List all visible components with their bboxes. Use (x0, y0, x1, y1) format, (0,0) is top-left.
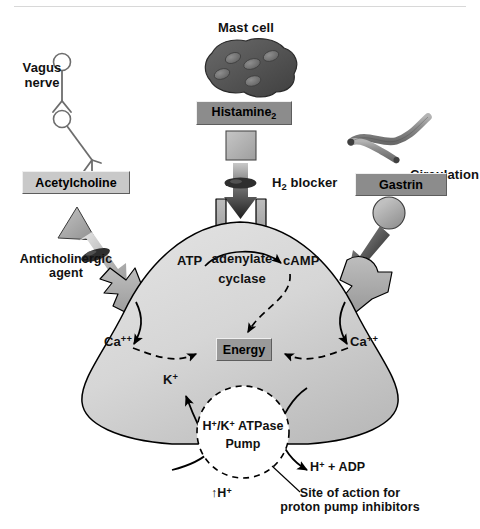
histamine-box[interactable]: Histamine2 (196, 101, 292, 125)
increased-hydrogen-label: ↑H+ (211, 486, 232, 501)
camp-label: cAMP (283, 254, 320, 269)
h2-blocker-disc (225, 177, 257, 188)
potassium-label: K+ (163, 372, 178, 387)
vagus-nerve-label: Vagus nerve (12, 61, 72, 91)
ppi-site-label: Site of action for proton pump inhibitor… (256, 486, 444, 515)
calcium-left-label: Ca++ (104, 334, 132, 349)
h2-blocker-label: H2 blocker (272, 176, 337, 192)
gastrin-molecule-group (373, 197, 405, 229)
energy-box[interactable]: Energy (216, 338, 272, 361)
calcium-right-label: Ca++ (350, 334, 378, 349)
adenylate-label: adenylate (206, 252, 278, 267)
h2-blocker-arrow (224, 163, 257, 219)
mast-cell-label: Mast cell (198, 21, 294, 36)
diagram-canvas: Vagus nerve Mast cell Circulation Antich… (0, 0, 480, 529)
anticholinergic-agent-label: Anticholinergic agent (8, 252, 124, 281)
proton-pump-label: H+/K+ ATPase Pump (178, 419, 308, 451)
mast-cell-figure (205, 39, 296, 97)
acetylcholine-box[interactable]: Acetylcholine (22, 171, 130, 194)
gastrin-box[interactable]: Gastrin (355, 173, 447, 196)
hydrogen-adp-label: H+ + ADP (310, 460, 365, 475)
atp-label: ATP (177, 254, 202, 269)
cyclase-label: cyclase (206, 272, 278, 287)
blood-vessel-figure (348, 117, 428, 163)
